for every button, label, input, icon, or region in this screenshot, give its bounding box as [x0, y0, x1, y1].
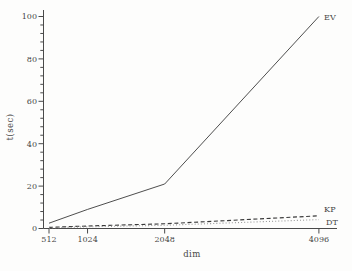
- y-axis-title: t(sec): [5, 113, 15, 140]
- x-tick-label: 1024: [77, 235, 97, 244]
- x-tick-label: 512: [41, 235, 56, 244]
- timing-line-chart: 020406080100512102420484096 EVKPDT dim t…: [0, 0, 352, 271]
- x-tick-label: 4096: [309, 235, 329, 244]
- chart-canvas: 020406080100512102420484096 EVKPDT dim t…: [0, 0, 352, 271]
- series-label-KP: KP: [324, 205, 336, 214]
- y-tick-label: 0: [32, 224, 37, 233]
- series-label-EV: EV: [324, 13, 336, 22]
- ticks-group: 020406080100512102420484096: [22, 12, 329, 244]
- x-tick-label: 2048: [154, 235, 174, 244]
- y-tick-label: 40: [27, 140, 37, 149]
- axes-group: [44, 10, 338, 229]
- y-tick-label: 100: [22, 12, 37, 21]
- y-tick-label: 20: [27, 182, 37, 191]
- axis-frame: [44, 10, 338, 229]
- series-label-DT: DT: [326, 218, 339, 227]
- series-line-EV: [49, 17, 319, 224]
- x-axis-title: dim: [183, 249, 201, 259]
- series-line-DT: [49, 220, 319, 228]
- y-tick-label: 60: [27, 97, 37, 106]
- y-tick-label: 80: [27, 55, 37, 64]
- series-group: EVKPDT: [49, 13, 339, 228]
